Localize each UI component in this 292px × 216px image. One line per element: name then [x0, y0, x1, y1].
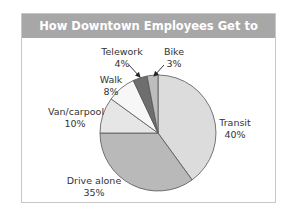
label-telework-pct: 4% [100, 58, 144, 70]
label-drive-alone-pct: 35% [66, 187, 122, 199]
label-transit: Transit 40% [216, 117, 254, 141]
label-walk-pct: 8% [98, 86, 124, 98]
label-bike-name: Bike [160, 46, 188, 58]
label-telework-name: Telework [100, 46, 144, 58]
label-bike: Bike 3% [160, 46, 188, 70]
pie-chart [0, 0, 292, 216]
label-drive-alone-name: Drive alone [66, 175, 122, 187]
label-van-carpool-name: Van/carpool [48, 106, 102, 118]
label-walk-name: Walk [98, 74, 124, 86]
label-transit-name: Transit [216, 117, 254, 129]
label-van-carpool: Van/carpool 10% [48, 106, 102, 130]
label-drive-alone: Drive alone 35% [66, 175, 122, 199]
label-telework: Telework 4% [100, 46, 144, 70]
label-transit-pct: 40% [216, 129, 254, 141]
label-walk: Walk 8% [98, 74, 124, 98]
label-van-carpool-pct: 10% [48, 118, 102, 130]
label-bike-pct: 3% [160, 58, 188, 70]
